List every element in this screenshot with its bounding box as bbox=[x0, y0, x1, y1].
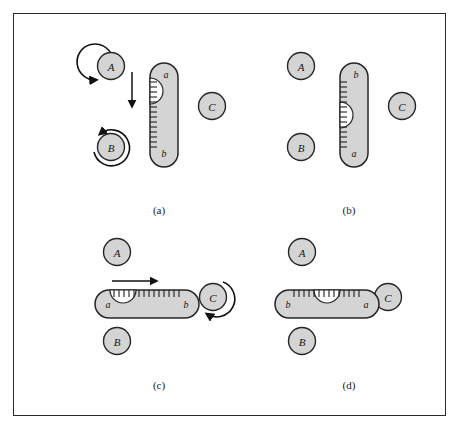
end-label-bottom: b bbox=[162, 148, 167, 159]
end-label-left: b bbox=[286, 299, 291, 310]
circle-c-group: C bbox=[200, 282, 235, 317]
circle-a-label: A bbox=[298, 247, 306, 259]
end-label-bottom: a bbox=[352, 148, 357, 159]
slotted-body-d: b a bbox=[275, 290, 379, 318]
circle-c-label: C bbox=[398, 101, 406, 113]
circle-b-group: B bbox=[289, 328, 316, 355]
circle-b-label: B bbox=[298, 142, 305, 154]
circle-a-label: A bbox=[113, 247, 121, 259]
figure-root: A B C bbox=[0, 0, 460, 430]
panel-b: A B C bbox=[254, 34, 454, 199]
circle-c-group: C bbox=[389, 93, 416, 120]
panel-c: A B C bbox=[64, 224, 274, 379]
caption-d: (d) bbox=[329, 379, 369, 391]
circle-a-group: A bbox=[104, 239, 131, 266]
circle-c-label: C bbox=[208, 101, 216, 113]
end-label-top: a bbox=[164, 69, 169, 80]
panel-d: A B C bbox=[254, 224, 454, 379]
circle-a-group: A bbox=[77, 44, 124, 80]
circle-a-group: A bbox=[289, 239, 316, 266]
caption-b: (b) bbox=[329, 204, 369, 216]
caption-a: (a) bbox=[139, 204, 179, 216]
slotted-body-a: a b bbox=[150, 63, 178, 167]
end-label-top: b bbox=[354, 69, 359, 80]
panel-a: A B C bbox=[64, 34, 264, 199]
circle-a-group: A bbox=[288, 53, 315, 80]
circle-b-label: B bbox=[299, 336, 306, 348]
caption-c: (c) bbox=[139, 379, 179, 391]
circle-c-label: C bbox=[384, 292, 392, 304]
end-label-left: a bbox=[106, 299, 111, 310]
circle-c-label: C bbox=[209, 292, 217, 304]
circle-b-group: B bbox=[288, 134, 315, 161]
slotted-body-c: a b bbox=[95, 290, 199, 318]
circle-b-label: B bbox=[114, 336, 121, 348]
figure-frame: A B C bbox=[13, 13, 446, 416]
end-label-right: b bbox=[184, 299, 189, 310]
circle-a-label: A bbox=[107, 61, 115, 73]
circle-a-label: A bbox=[297, 61, 305, 73]
end-label-right: a bbox=[364, 299, 369, 310]
circle-b-group: B bbox=[104, 328, 131, 355]
circle-c-group: C bbox=[199, 93, 226, 120]
circle-b-group: B bbox=[94, 130, 130, 166]
circle-b-label: B bbox=[108, 142, 115, 154]
slotted-body-b: b a bbox=[340, 63, 368, 167]
